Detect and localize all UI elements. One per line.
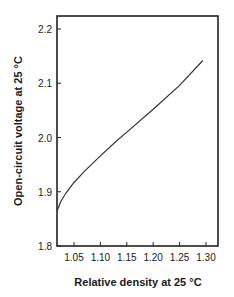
x-tick-label: 1.25 xyxy=(170,252,190,263)
y-tick-label: 2.0 xyxy=(38,133,52,144)
x-tick-label: 1.10 xyxy=(91,252,111,263)
chart: 1.81.92.02.12.21.051.101.151.201.251.30 … xyxy=(0,0,234,297)
x-tick-label: 1.20 xyxy=(143,252,163,263)
y-tick-label: 2.2 xyxy=(38,24,52,35)
x-axis-label: Relative density at 25 °C xyxy=(74,276,201,288)
chart-svg: 1.81.92.02.12.21.051.101.151.201.251.30 … xyxy=(0,0,234,297)
data-line xyxy=(57,61,203,211)
y-tick-label: 1.8 xyxy=(38,241,52,252)
y-tick-label: 1.9 xyxy=(38,187,52,198)
y-tick-label: 2.1 xyxy=(38,78,52,89)
x-tick-label: 1.05 xyxy=(64,252,84,263)
y-axis-label: Open-circuit voltage at 25 °C xyxy=(12,56,24,206)
plot-frame xyxy=(57,16,218,246)
x-tick-label: 1.30 xyxy=(196,252,216,263)
plot-area: 1.81.92.02.12.21.051.101.151.201.251.30 xyxy=(38,16,218,263)
x-tick-label: 1.15 xyxy=(117,252,137,263)
